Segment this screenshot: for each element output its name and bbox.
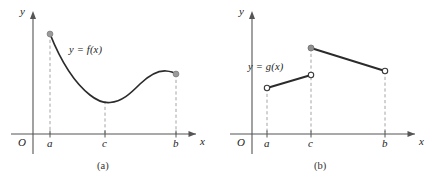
panel-b-tick-label-b: b xyxy=(382,138,388,149)
open-marker-c-left xyxy=(308,72,313,77)
panel-b-origin-label: O xyxy=(237,137,245,148)
open-marker-a xyxy=(264,85,269,90)
panel-b-tick-label-c: c xyxy=(308,138,313,149)
x-axis-arrowhead xyxy=(189,131,197,137)
panel-a-tick-label-b: b xyxy=(173,138,179,149)
panel-a-y-axis-label: y xyxy=(20,6,25,17)
panel-b-y-axis-label: y xyxy=(239,6,244,17)
segment-g-1 xyxy=(267,75,311,88)
x-axis-arrowhead xyxy=(408,131,416,137)
panel-b-dashed-lines xyxy=(267,48,385,134)
panel-b: y x O a c b y = g(x) (b) xyxy=(219,0,438,180)
panel-b-tick-label-a: a xyxy=(264,138,270,149)
figure-root: y x O a c b y = f(x) (a) xyxy=(0,0,438,180)
panel-b-x-axis-label: x xyxy=(419,136,424,147)
y-axis-arrowhead xyxy=(30,11,36,19)
endpoint-marker-a xyxy=(47,31,53,37)
panel-a-tick-label-c: c xyxy=(102,138,107,149)
filled-marker-c-top xyxy=(308,45,314,51)
panel-a-y-axis xyxy=(30,11,36,154)
panel-b-curve-label: y = g(x) xyxy=(248,62,284,73)
panel-a-origin-label: O xyxy=(18,137,26,148)
open-marker-b xyxy=(382,68,387,73)
segment-g-2 xyxy=(311,48,385,71)
panel-b-y-axis xyxy=(249,11,255,154)
panel-a-tick-label-a: a xyxy=(47,138,53,149)
y-axis-arrowhead xyxy=(249,11,255,19)
panel-b-plot xyxy=(219,0,438,180)
panel-a-curve-label: y = f(x) xyxy=(69,45,102,56)
panel-a: y x O a c b y = f(x) (a) xyxy=(0,0,219,180)
endpoint-marker-b xyxy=(173,71,179,77)
panel-a-x-axis-label: x xyxy=(200,136,205,147)
panel-b-caption: (b) xyxy=(314,161,326,172)
panel-a-plot xyxy=(0,0,219,180)
panel-a-caption: (a) xyxy=(97,161,109,172)
